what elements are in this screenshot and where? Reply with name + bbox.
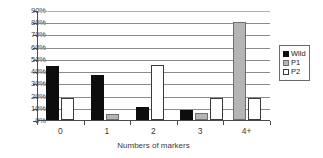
x-axis-tick-mark bbox=[37, 121, 38, 125]
bar-wild-1 bbox=[91, 75, 104, 120]
x-axis-tick-mark bbox=[270, 121, 271, 125]
bar-group bbox=[83, 11, 128, 120]
x-axis-tick-mark bbox=[130, 121, 131, 125]
bar-p2-4plus bbox=[248, 98, 261, 120]
bar-group bbox=[38, 11, 83, 120]
bar-p1-4plus bbox=[233, 22, 246, 120]
x-axis-tick-label: 1 bbox=[84, 126, 131, 136]
x-axis-tick-mark bbox=[223, 121, 224, 125]
bar-wild-2 bbox=[136, 107, 149, 120]
x-axis-tick-mark bbox=[177, 121, 178, 125]
x-axis-tick-label: 4+ bbox=[223, 126, 270, 136]
bar-group bbox=[225, 11, 270, 120]
x-axis-tick-label: 0 bbox=[37, 126, 84, 136]
bar-wild-0 bbox=[46, 66, 59, 120]
gray-square-swatch bbox=[283, 60, 289, 66]
bar-p1-3 bbox=[195, 113, 208, 120]
x-axis-tick-label: 2 bbox=[130, 126, 177, 136]
legend-item-label: P2 bbox=[291, 68, 300, 76]
bar-wild-3 bbox=[180, 110, 193, 120]
plot-area bbox=[37, 11, 270, 121]
legend-item-label: P1 bbox=[291, 59, 300, 67]
black-square-swatch bbox=[283, 51, 289, 57]
bar-groups bbox=[38, 11, 270, 120]
bar-p2-3 bbox=[210, 98, 223, 120]
x-axis-labels: 01234+ bbox=[37, 126, 270, 136]
bar-group bbox=[127, 11, 172, 120]
legend-item-p1[interactable]: P1 bbox=[283, 59, 306, 67]
x-axis-tick-mark bbox=[84, 121, 85, 125]
x-axis-tick-label: 3 bbox=[177, 126, 224, 136]
legend-item-wild[interactable]: Wild bbox=[283, 50, 306, 58]
bar-p2-0 bbox=[61, 98, 74, 120]
bar-group bbox=[172, 11, 225, 120]
white-square-swatch bbox=[283, 69, 289, 75]
bar-p2-2 bbox=[151, 65, 164, 120]
bar-p1-1 bbox=[106, 114, 119, 120]
legend-item-p2[interactable]: P2 bbox=[283, 68, 306, 76]
bar-chart: 90%80%70%60%50%40%30%20%10%0% 01234+ Num… bbox=[0, 0, 323, 158]
legend-item-label: Wild bbox=[291, 50, 306, 58]
chart-legend: WildP1P2 bbox=[279, 45, 310, 81]
x-axis-title: Numbers of markers bbox=[37, 141, 270, 150]
